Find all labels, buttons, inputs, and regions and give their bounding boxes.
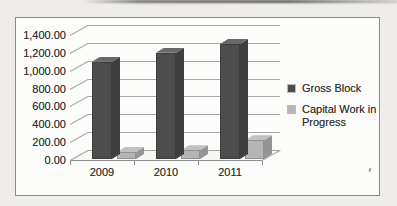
x-axis-label: 2010 xyxy=(134,166,198,178)
x-axis-line xyxy=(70,160,262,161)
gridline-leader xyxy=(70,79,88,90)
x-axis-label: 2011 xyxy=(198,166,262,178)
x-axis-label: 2009 xyxy=(70,166,134,178)
series-marker-gross-block xyxy=(288,85,295,92)
y-axis-label: 400.00 xyxy=(12,118,66,130)
bar-front-face xyxy=(156,53,176,159)
gridline-leader xyxy=(70,114,88,125)
y-axis-label: 600.00 xyxy=(12,100,66,112)
x-axis-tick xyxy=(262,161,263,165)
x-axis-tick xyxy=(198,161,199,165)
gridline-leader xyxy=(70,25,88,36)
gridline-leader xyxy=(70,43,88,54)
gridline-leader xyxy=(70,132,88,143)
bar-side-face xyxy=(112,57,120,159)
bar-side-face xyxy=(240,39,248,159)
scanned-chart-image: 1,400.001,200.001,000.00800.00600.00400.… xyxy=(0,0,397,206)
gridline xyxy=(88,43,280,44)
series-marker-capital-work-in-progress xyxy=(288,106,295,113)
y-axis-label: 1,200.00 xyxy=(12,47,66,59)
x-axis-tick xyxy=(70,161,71,165)
gridline xyxy=(88,25,280,26)
legend-label-gross-block: Gross Block xyxy=(302,82,386,95)
legend-label-capital-work-in-progress: Capital Work in Progress xyxy=(302,103,386,129)
y-axis-label: 0.00 xyxy=(12,154,66,166)
chart-legend: Gross Block Capital Work in Progress xyxy=(288,82,386,137)
y-axis-label: 1,400.00 xyxy=(12,29,66,41)
bar-side-face xyxy=(176,48,184,159)
gridline-leader xyxy=(70,96,88,107)
bar-front-face xyxy=(220,44,240,159)
y-axis-label: 1,000.00 xyxy=(12,65,66,77)
y-axis-label: 800.00 xyxy=(12,83,66,95)
legend-item-gross-block: Gross Block xyxy=(288,82,386,95)
legend-item-capital-work-in-progress: Capital Work in Progress xyxy=(288,103,386,129)
gridline-leader xyxy=(70,61,88,72)
x-axis-tick xyxy=(134,161,135,165)
y-axis-label: 200.00 xyxy=(12,136,66,148)
bar-front-face xyxy=(92,62,112,159)
